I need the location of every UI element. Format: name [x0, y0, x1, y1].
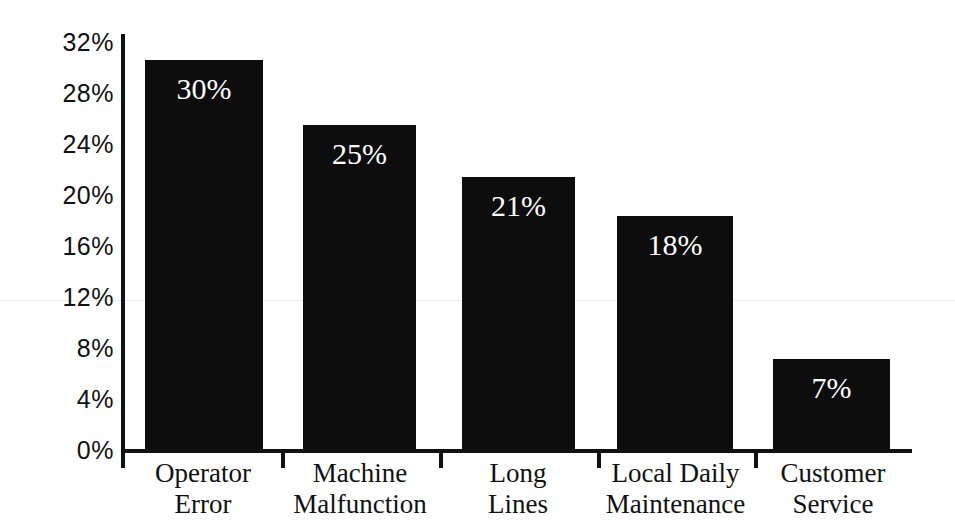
x-axis-category-label-customer-service: Customer Service — [754, 458, 912, 520]
y-axis-tick-label-4: 4% — [24, 387, 114, 412]
x-axis-category-label-local-daily-maintenance: Local Daily Maintenance — [597, 458, 754, 520]
category-line-1: Long — [439, 458, 597, 489]
y-axis-tick-label-20: 20% — [24, 183, 114, 208]
category-line-2: Maintenance — [597, 489, 754, 520]
category-line-1: Operator — [123, 458, 283, 489]
category-line-1: Customer — [754, 458, 912, 489]
y-axis-tick-label-32: 32% — [24, 30, 114, 55]
category-line-2: Service — [754, 489, 912, 520]
y-axis-tick-label-0: 0% — [24, 438, 114, 463]
x-axis-category-label-machine-malfunction: Machine Malfunction — [281, 458, 439, 520]
bar-customer-service[interactable]: 7% — [773, 359, 890, 450]
bar-chart: 32% 28% 24% 20% 16% 12% 8% 4% 0% 30% 25%… — [0, 0, 955, 532]
category-line-2: Malfunction — [281, 489, 439, 520]
category-line-2: Lines — [439, 489, 597, 520]
y-axis-tick-label-12: 12% — [24, 285, 114, 310]
y-axis-tick-label-8: 8% — [24, 336, 114, 361]
bar-operator-error[interactable]: 30% — [145, 60, 263, 450]
bar-long-lines[interactable]: 21% — [462, 177, 575, 450]
x-axis-category-label-operator-error: Operator Error — [123, 458, 283, 520]
category-line-1: Local Daily — [597, 458, 754, 489]
y-axis-tick-label-16: 16% — [24, 234, 114, 259]
plot-area: 30% 25% 21% 18% 7% — [125, 34, 912, 450]
bar-value-label: 21% — [462, 191, 575, 221]
bar-value-label: 25% — [303, 139, 416, 169]
y-axis-tick-label-28: 28% — [24, 81, 114, 106]
x-axis-category-label-long-lines: Long Lines — [439, 458, 597, 520]
y-axis-tick-label-24: 24% — [24, 132, 114, 157]
category-line-1: Machine — [281, 458, 439, 489]
bar-value-label: 30% — [145, 74, 263, 104]
bar-local-daily-maintenance[interactable]: 18% — [617, 216, 733, 450]
bar-machine-malfunction[interactable]: 25% — [303, 125, 416, 450]
bar-value-label: 18% — [617, 230, 733, 260]
category-line-2: Error — [123, 489, 283, 520]
bar-value-label: 7% — [773, 373, 890, 403]
